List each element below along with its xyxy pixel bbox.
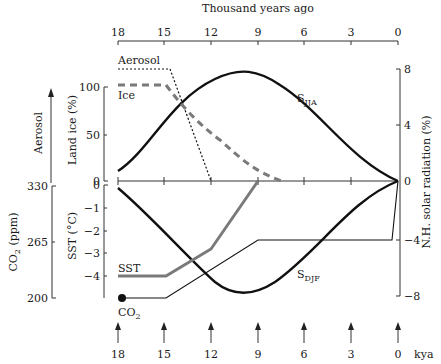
sst-tick: −2 [84, 225, 100, 238]
climate-chart: Thousand years ago 18 15 12 9 6 3 0 Aero… [0, 0, 441, 364]
sst-tick: −4 [84, 270, 100, 283]
aerosol-axis: Aerosol [32, 88, 54, 183]
top-tick-label: 18 [111, 26, 125, 39]
co2-tick: 200 [27, 292, 48, 305]
sst-tick: −3 [84, 247, 100, 260]
solar-tick: 0 [404, 175, 411, 188]
aerosol-series-label: Aerosol [117, 54, 161, 67]
top-axis-title: Thousand years ago [202, 2, 314, 15]
series-sjja [118, 72, 398, 181]
land-ice-tick: 100 [79, 81, 100, 94]
bottom-tick-label: 12 [204, 348, 218, 361]
land-ice-axis: 100 50 0 Land ice (%) [66, 81, 108, 188]
sst-tick: −1 [84, 202, 100, 215]
solar-tick: −8 [404, 290, 420, 303]
bottom-tick-label: 3 [348, 348, 355, 361]
solar-tick: −4 [404, 234, 420, 247]
series-ice [118, 85, 282, 181]
co2-axis: 330 265 200 CO2 (ppm) [7, 180, 56, 305]
kya-label: kya [414, 348, 434, 361]
bottom-tick-label: 15 [157, 348, 171, 361]
co2-tick: 330 [27, 180, 48, 193]
sjja-label: SJJA [297, 92, 317, 107]
ice-series-label: Ice [118, 89, 135, 102]
top-tick-label: 0 [395, 26, 402, 39]
sst-axis-label: SST (°C) [66, 212, 79, 260]
bottom-tick-label: 9 [255, 348, 262, 361]
top-tick-label: 6 [301, 26, 308, 39]
sst-series-label: SST [118, 262, 141, 275]
co2-axis-label: CO2 (ppm) [7, 212, 22, 271]
sst-axis: 0 −1 −2 −3 −4 SST (°C) [66, 179, 108, 298]
sdjf-label: SDJF [297, 268, 320, 283]
co2-tick: 265 [27, 236, 48, 249]
top-tick-label: 9 [255, 26, 262, 39]
sst-tick: 0 [93, 179, 100, 192]
co2-start-dot [118, 294, 126, 302]
top-tick-label: 15 [157, 26, 171, 39]
land-ice-axis-label: Land ice (%) [66, 95, 79, 165]
aerosol-axis-label: Aerosol [32, 111, 45, 155]
top-axis: 18 15 12 9 6 3 0 [111, 26, 402, 45]
land-ice-tick: 50 [86, 129, 100, 142]
solar-axis-label: N.H. solar radiation (%) [420, 115, 433, 248]
bottom-tick-label: 6 [301, 348, 308, 361]
bottom-arrows: 18 15 12 9 6 3 0 kya [111, 322, 434, 361]
solar-tick: 8 [404, 63, 411, 76]
series-co2 [122, 181, 398, 298]
bottom-tick-label: 18 [111, 348, 125, 361]
solar-tick: 4 [404, 119, 411, 132]
top-tick-label: 3 [348, 26, 355, 39]
co2-series-label: CO2 [118, 306, 141, 321]
top-tick-label: 12 [204, 26, 218, 39]
solar-axis: 8 4 0 −4 −8 N.H. solar radiation (%) [396, 63, 433, 303]
bottom-tick-label: 0 [395, 348, 402, 361]
